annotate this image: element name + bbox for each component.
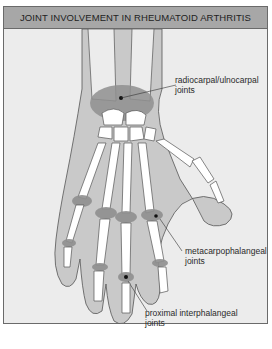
mcp-joints-label: metacarpophalangeal joints — [185, 246, 267, 266]
diagram-title: JOINT INVOLVEMENT IN RHEUMATOID ARTHRITI… — [20, 12, 251, 23]
pip-joints-label: proximal interphalangeal joints — [145, 308, 238, 328]
diagram-header: JOINT INVOLVEMENT IN RHEUMATOID ARTHRITI… — [4, 7, 267, 29]
wrist-joints-label: radiocarpal/ulnocarpal joints — [175, 75, 259, 95]
hand-skeleton-illustration — [4, 29, 268, 324]
diagram-frame: JOINT INVOLVEMENT IN RHEUMATOID ARTHRITI… — [3, 6, 268, 324]
